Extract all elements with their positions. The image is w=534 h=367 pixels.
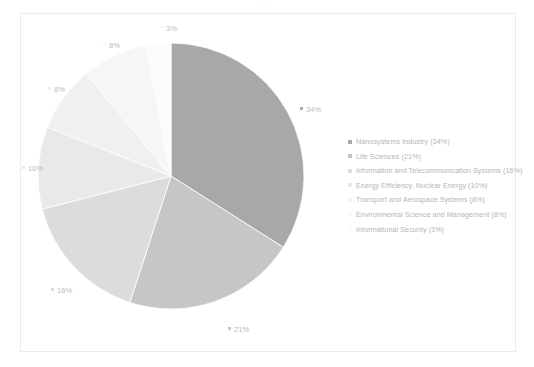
data-label-marker-icon xyxy=(160,26,163,29)
data-label-marker-icon xyxy=(22,166,25,169)
legend-item[interactable]: Information and Telecommunication System… xyxy=(348,165,520,180)
legend-swatch-icon xyxy=(348,183,352,187)
legend-item-label: Transport and Aerospace Systems (8%) xyxy=(356,194,485,205)
legend-item[interactable]: Transport and Aerospace Systems (8%) xyxy=(348,194,520,209)
clipped-title-remnant: · · · xyxy=(0,0,534,10)
data-label-text: 8% xyxy=(109,41,120,50)
legend-item-label: Environmental Science and Management (8%… xyxy=(356,209,507,220)
legend-item[interactable]: Informational Security (3%) xyxy=(348,224,520,239)
legend-item-label: Energy Efficiency, Nuclear Energy (10%) xyxy=(356,180,488,191)
pie-data-label: 8% xyxy=(103,40,120,50)
pie-data-label: 16% xyxy=(51,285,72,295)
pie-data-label: 8% xyxy=(48,84,65,94)
legend-item[interactable]: Nanosystems Industry (34%) xyxy=(348,136,520,151)
pie-svg xyxy=(37,26,305,326)
data-label-text: 3% xyxy=(166,24,177,33)
data-label-text: 21% xyxy=(234,325,249,334)
legend-item-label: Nanosystems Industry (34%) xyxy=(356,136,450,147)
legend-item-label: Information and Telecommunication System… xyxy=(356,165,522,176)
pie-chart-figure: · · · 34%21%16%10%8%8%3% Nanosystems Ind… xyxy=(0,0,534,367)
legend-item-label: Life Sciences (21%) xyxy=(356,151,421,162)
pie-slice-group xyxy=(38,43,304,309)
legend-swatch-icon xyxy=(348,227,352,231)
data-label-text: 8% xyxy=(54,85,65,94)
data-label-marker-icon xyxy=(103,43,106,46)
pie-data-label: 34% xyxy=(300,104,321,114)
legend-item[interactable]: Life Sciences (21%) xyxy=(348,151,520,166)
legend-swatch-icon xyxy=(348,140,352,144)
data-label-marker-icon xyxy=(48,87,51,90)
data-label-marker-icon xyxy=(300,107,303,110)
pie-data-label: 3% xyxy=(160,23,177,33)
legend-item[interactable]: Environmental Science and Management (8%… xyxy=(348,209,520,224)
legend-swatch-icon xyxy=(348,212,352,216)
legend-swatch-icon xyxy=(348,154,352,158)
chart-legend: Nanosystems Industry (34%)Life Sciences … xyxy=(348,136,520,238)
legend-item[interactable]: Energy Efficiency, Nuclear Energy (10%) xyxy=(348,180,520,195)
pie-data-label: 21% xyxy=(228,324,249,334)
data-label-marker-icon xyxy=(228,327,231,330)
data-label-text: 10% xyxy=(28,164,43,173)
pie-data-label: 10% xyxy=(22,163,43,173)
data-label-marker-icon xyxy=(51,288,54,291)
data-label-text: 34% xyxy=(306,105,321,114)
legend-swatch-icon xyxy=(348,169,352,173)
legend-item-label: Informational Security (3%) xyxy=(356,224,444,235)
pie-plot-area xyxy=(37,26,305,326)
data-label-text: 16% xyxy=(57,286,72,295)
legend-swatch-icon xyxy=(348,198,352,202)
